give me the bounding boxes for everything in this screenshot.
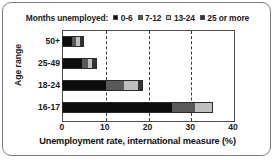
legend-label-25-or-more: 25 or more — [207, 13, 249, 23]
legend-item-0-6[interactable]: 0-6 — [113, 13, 132, 23]
x-tick-label-20: 20 — [133, 122, 163, 132]
bar-row-50-[interactable] — [62, 36, 84, 47]
legend-item-13-24[interactable]: 13-24 — [166, 13, 194, 23]
legend-label-0-6: 0-6 — [121, 13, 133, 23]
bar-segment-25-or-more[interactable] — [80, 36, 84, 47]
bar-segment-0-6[interactable] — [62, 36, 72, 47]
y-axis-title: Age range — [13, 30, 23, 100]
legend-title: Months unemployed: — [26, 13, 108, 23]
bar-segment-0-6[interactable] — [62, 80, 106, 91]
legend-swatch-25-or-more — [200, 15, 205, 20]
bar-segment-25-or-more[interactable] — [92, 58, 97, 69]
x-tick-label-30: 30 — [175, 122, 205, 132]
x-axis: 010203040 — [0, 122, 275, 134]
bar-segment-25-or-more[interactable] — [138, 80, 143, 91]
legend-swatch-0-6 — [113, 15, 118, 20]
legend-label-13-24: 13-24 — [174, 13, 195, 23]
bar-segment-13-24[interactable] — [124, 80, 138, 91]
legend-item-25-or-more[interactable]: 25 or more — [200, 13, 249, 23]
bar-segment-7-12[interactable] — [172, 102, 195, 113]
x-tick-label-10: 10 — [90, 122, 120, 132]
y-tick-label-16-17: 16-17 — [14, 102, 60, 112]
legend-swatch-7-12 — [138, 15, 143, 20]
bar-segment-13-24[interactable] — [195, 102, 213, 113]
bar-segment-0-6[interactable] — [62, 58, 82, 69]
legend-swatch-13-24 — [166, 15, 171, 20]
bar-row-18-24[interactable] — [62, 80, 143, 91]
x-axis-title: Unemployment rate, international measure… — [0, 136, 275, 146]
x-tick-label-40: 40 — [218, 122, 248, 132]
bar-row-25-49[interactable] — [62, 58, 97, 69]
bar-segment-0-6[interactable] — [62, 102, 172, 113]
legend-item-7-12[interactable]: 7-12 — [138, 13, 162, 23]
legend-label-7-12: 7-12 — [145, 13, 161, 23]
x-tick-label-0: 0 — [47, 122, 77, 132]
bar-segment-7-12[interactable] — [106, 80, 124, 91]
bars-layer — [62, 30, 233, 120]
chart-screenshot: Months unemployed: 0-6 7-12 13-24 25 or … — [0, 0, 275, 160]
chart-legend: Months unemployed: 0-6 7-12 13-24 25 or … — [0, 11, 275, 24]
bar-row-16-17[interactable] — [62, 102, 213, 113]
